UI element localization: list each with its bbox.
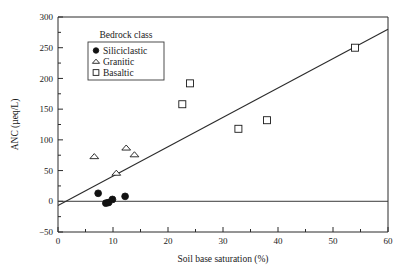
x-tick-label: 0 (56, 236, 61, 246)
y-axis-title: ANC (µeq/L) (10, 99, 21, 151)
legend-entry-label: Siliciclastic (103, 46, 147, 56)
data-point (179, 101, 186, 108)
series-basaltic (179, 44, 359, 132)
x-tick-label: 40 (274, 236, 284, 246)
data-point (235, 125, 242, 132)
y-tick-label: 300 (40, 12, 54, 22)
y-tick-label: 150 (40, 104, 54, 114)
data-point (90, 154, 99, 159)
data-point (109, 196, 116, 203)
data-point (122, 193, 129, 200)
legend-entry-label: Granitic (103, 57, 134, 67)
x-axis-ticks (58, 227, 388, 232)
x-tick-label: 60 (384, 236, 394, 246)
y-axis-tick-labels: −50050100150200250300 (39, 12, 54, 237)
y-tick-label: 200 (40, 74, 54, 84)
y-tick-label: 100 (40, 135, 54, 145)
data-point (187, 80, 194, 87)
data-point (264, 117, 271, 124)
x-axis-tick-labels: 0102030405060 (56, 236, 393, 246)
x-tick-label: 30 (219, 236, 229, 246)
legend-entry-label: Basaltic (103, 68, 134, 78)
legend-marker (93, 70, 99, 76)
data-point (122, 145, 131, 150)
series-siliciclastic (95, 190, 129, 207)
figure-container: −50050100150200250300 0102030405060 ANC … (0, 0, 413, 276)
y-tick-label: 250 (40, 43, 54, 53)
scatter-plot: −50050100150200250300 0102030405060 ANC … (0, 0, 413, 276)
x-tick-label: 20 (164, 236, 174, 246)
legend-title: Bedrock class (99, 30, 152, 40)
x-axis-title: Soil base saturation (%) (177, 254, 268, 265)
y-tick-label: −50 (39, 227, 54, 237)
data-point (130, 152, 139, 157)
series-granitic (90, 145, 139, 175)
x-tick-label: 10 (109, 236, 119, 246)
y-tick-label: 0 (49, 196, 54, 206)
y-tick-label: 50 (44, 166, 54, 176)
x-tick-label: 50 (329, 236, 339, 246)
legend: Bedrock classSiliciclasticGraniticBasalt… (88, 30, 164, 80)
legend-marker (93, 48, 99, 54)
data-point (95, 190, 102, 197)
data-point (352, 44, 359, 51)
